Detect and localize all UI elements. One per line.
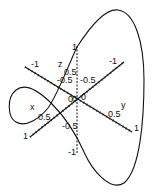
origin-label-y: 0 bbox=[81, 92, 86, 102]
x-tick-05: 0.5 bbox=[38, 112, 51, 122]
y-tick-05: 0.5 bbox=[108, 109, 121, 119]
z-axis-label: z bbox=[58, 59, 63, 69]
z-tick-neg05: -0.5 bbox=[62, 121, 78, 131]
z-tick-neg1: -1 bbox=[68, 147, 76, 157]
x-tick-1: 1 bbox=[23, 131, 28, 141]
x-axis-label: x bbox=[30, 102, 35, 112]
z-tick-1: 1 bbox=[72, 42, 77, 52]
x-tick-neg1: -1 bbox=[109, 56, 117, 66]
y-tick-1: 1 bbox=[134, 123, 139, 133]
y-tick-neg1: -1 bbox=[31, 59, 39, 69]
y-axis-label: y bbox=[121, 100, 126, 110]
z-tick-05: 0.5 bbox=[64, 67, 77, 77]
origin-label-x: 0 bbox=[72, 94, 77, 104]
3d-curve-plot: z x y -1 0.5 1 -0.5 -1 -0.5 0.5 1 1 0.5 … bbox=[0, 0, 152, 195]
x-tick-neg05: -0.5 bbox=[80, 75, 96, 85]
